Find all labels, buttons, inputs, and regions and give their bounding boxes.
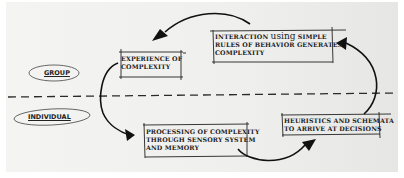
box-text-line: THROUGH SENSORY SYSTEM [146,136,259,144]
arrow-experience-to-processing [101,63,130,135]
box-text-line: AND MEMORY [146,144,259,152]
box-text-segment: INTERACTION [215,33,271,40]
arrowhead-icon [125,129,135,141]
box-text-line: HEURISTICS AND SCHEMATA [284,117,394,125]
individual-level-label: INDIVIDUAL [28,113,71,121]
box-text-line: TO ARRIVE AT DECISIONS [284,125,394,133]
level-divider-line [8,93,398,97]
box-text-line: RULES OF BEHAVIOR GENERATES [215,41,342,49]
group-level-label: GROUP [44,69,70,77]
box-text-segment: using [271,31,296,41]
box-text-line: INTERACTION using SIMPLE [215,32,342,41]
arrow-interaction-to-experience [165,14,250,32]
box-text-segment: SIMPLE [295,33,326,40]
heuristics-box: HEURISTICS AND SCHEMATA TO ARRIVE AT DEC… [284,117,394,133]
box-text-line: COMPLEXITY [121,63,182,71]
box-text-line: EXPERIENCE OF [121,55,182,63]
experience-of-complexity-box: EXPERIENCE OF COMPLEXITY [121,55,182,71]
arrow-heuristics-to-interaction [346,43,377,114]
processing-box: PROCESSING OF COMPLEXITY THROUGH SENSORY… [146,128,259,152]
box-text-line: COMPLEXITY [215,49,342,57]
box-text-line: PROCESSING OF COMPLEXITY [146,128,259,136]
interaction-box: INTERACTION using SIMPLE RULES OF BEHAVI… [215,32,342,57]
